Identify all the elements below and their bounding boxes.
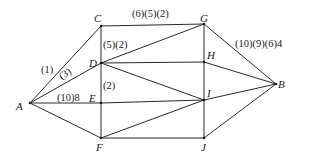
edge-h-b [204,62,276,84]
edge-label: (5)(2) [103,39,128,51]
node-g-label: G [200,12,208,24]
node-b-label: B [278,78,285,90]
node-a-label: A [15,100,23,112]
edge-f-i [101,100,204,138]
edge-labels-group: (1)(3)(10)8(5)(2)(2)(6)(5)(2)(10)(9)(6)4 [41,8,283,104]
edge-label: (1) [41,64,54,76]
node-d-dot [100,62,103,65]
nodes-group: ACDEFGHIJB [15,12,285,153]
edge-label: (10)8 [57,92,80,104]
node-c-dot [100,25,103,28]
node-e-dot [100,102,103,105]
node-f-label: F [95,141,103,153]
edge-label: (2) [103,80,116,92]
node-b-dot [275,83,278,86]
node-c-label: C [94,12,102,24]
node-d-label: D [88,57,97,69]
node-f-dot [100,137,103,140]
node-a-dot [29,102,32,105]
edge-d-i [101,63,204,100]
edge-a-f [30,103,101,138]
edge-c-g [101,24,204,26]
edge-label: (6)(5)(2) [132,8,169,20]
edge-d-h [101,62,204,63]
node-j-label: J [201,141,207,153]
node-i-dot [203,99,206,102]
node-h-dot [203,61,206,64]
node-e-label: E [88,92,96,104]
node-h-label: H [206,49,216,61]
node-i-label: I [206,87,212,99]
edge-label: (10)(9)(6)4 [235,38,283,50]
network-diagram: (1)(3)(10)8(5)(2)(2)(6)(5)(2)(10)(9)(6)4… [0,0,309,161]
node-j-dot [203,137,206,140]
edge-e-i [101,100,204,103]
